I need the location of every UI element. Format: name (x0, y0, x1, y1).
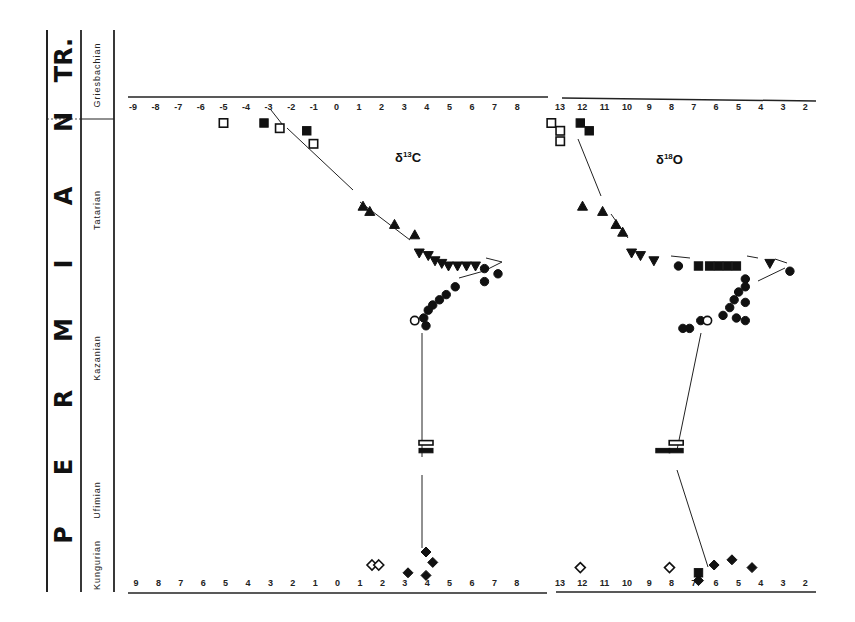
square-open-marker (219, 119, 227, 127)
triangle-down-marker (471, 262, 481, 271)
diamond-filled-marker (428, 557, 438, 567)
tick-label: 5 (736, 578, 741, 588)
system-letter-i: I (50, 260, 78, 269)
tick-label: -4 (242, 102, 250, 112)
data-markers (219, 119, 794, 586)
mixed-filled-marker (714, 262, 722, 270)
tick-label: -8 (152, 102, 160, 112)
circle-filled-marker (734, 288, 742, 296)
rect-filled-marker (656, 448, 670, 452)
triangle-up-marker (578, 201, 588, 210)
tick-label: 5 (447, 578, 452, 588)
tick-label: 8 (669, 578, 674, 588)
square-filled-marker (585, 127, 593, 135)
circle-filled-marker (726, 303, 734, 311)
rect-open-marker (419, 441, 433, 445)
oxygen-trend-lines (578, 139, 787, 567)
tick-label: 9 (133, 578, 138, 588)
triangle-down-marker (627, 249, 637, 258)
triangle-up-marker (390, 219, 400, 228)
tick-label: 6 (469, 102, 474, 112)
square-filled-marker (260, 119, 268, 127)
diamond-filled-marker (709, 560, 719, 570)
tick-label: 6 (714, 102, 719, 112)
tick-label: 8 (515, 102, 520, 112)
circle-filled-marker (679, 324, 687, 332)
square-open-marker (276, 124, 284, 132)
stage-griesbachian: Griesbachian (92, 42, 102, 107)
oxygen-bottom-axis-ticks: 1312111098765432 (555, 578, 808, 588)
system-letter-n: N (50, 112, 78, 132)
tick-label: 1 (357, 578, 362, 588)
diamond-open-marker (575, 563, 585, 573)
circle-filled-marker (494, 270, 502, 278)
tick-label: 8 (514, 578, 519, 588)
circle-filled-marker (741, 316, 749, 324)
tick-label: 13 (555, 102, 565, 112)
triangle-down-marker (444, 262, 454, 271)
circle-filled-marker (730, 296, 738, 304)
tick-label: 11 (600, 578, 610, 588)
tick-label: 4 (758, 578, 763, 588)
tick-label: 2 (380, 578, 385, 588)
tick-label: 10 (622, 102, 632, 112)
tick-label: -7 (174, 102, 182, 112)
carbon-panel-title: δ13C (395, 150, 422, 165)
tick-label: 8 (156, 578, 161, 588)
mixed-filled-marker (705, 262, 713, 270)
tick-label: 6 (714, 578, 719, 588)
tick-label: -6 (197, 102, 205, 112)
tick-label: -9 (129, 102, 137, 112)
system-letters: TR. N A I M R E P (50, 38, 78, 544)
circle-filled-marker (422, 322, 430, 330)
tick-label: 5 (447, 102, 452, 112)
triangle-down-marker (636, 252, 646, 261)
circle-filled-marker (451, 283, 459, 291)
square-open-marker (309, 140, 317, 148)
tick-label: 9 (647, 102, 652, 112)
tick-label: 3 (402, 578, 407, 588)
system-letter-r: R (50, 390, 78, 408)
tick-label: 12 (577, 102, 587, 112)
tick-label: 6 (469, 578, 474, 588)
stage-ufimian: Ufimian (92, 481, 102, 519)
triangle-down-marker (453, 262, 463, 271)
rect-filled-marker (419, 448, 433, 452)
tick-label: 7 (492, 578, 497, 588)
tick-label: 3 (780, 102, 785, 112)
tick-label: 4 (758, 102, 763, 112)
circle-filled-marker (424, 306, 432, 314)
rect-open-marker (669, 441, 683, 445)
tick-label: 2 (803, 102, 808, 112)
tick-label: 13 (555, 578, 565, 588)
circle-filled-marker (732, 314, 740, 322)
triangle-down-marker (649, 257, 659, 266)
tick-label: 2 (379, 102, 384, 112)
tick-label: 0 (335, 578, 340, 588)
chemostratigraphy-figure: TR. N A I M R E P Griesbachian Tatarian … (0, 0, 855, 622)
carbon-top-axis-ticks: -9-8-7-6-5-4-3-2-1012345678 (129, 102, 520, 112)
stage-labels: Griesbachian Tatarian Kazanian Ufimian K… (92, 42, 102, 590)
diamond-open-marker (665, 563, 675, 573)
triangle-down-marker (462, 262, 472, 271)
tick-label: 5 (223, 578, 228, 588)
tick-label: 6 (201, 578, 206, 588)
tick-label: 7 (178, 578, 183, 588)
circle-filled-marker (480, 277, 488, 285)
system-letter-p: P (50, 526, 78, 544)
tick-label: 5 (736, 102, 741, 112)
tick-label: 1 (313, 578, 318, 588)
circle-open-marker (703, 316, 711, 324)
circle-filled-marker (420, 314, 428, 322)
tick-label: 11 (600, 102, 610, 112)
system-letter-e: E (50, 459, 78, 475)
system-overlying-label: TR. (50, 38, 78, 82)
system-letter-m: M (50, 318, 78, 342)
tick-label: 7 (492, 102, 497, 112)
circle-filled-marker (741, 298, 749, 306)
square-open-marker (556, 127, 564, 135)
stage-tatarian: Tatarian (92, 190, 102, 230)
triangle-up-marker (358, 201, 368, 210)
square-open-marker (547, 119, 555, 127)
triangle-up-marker (598, 206, 608, 215)
